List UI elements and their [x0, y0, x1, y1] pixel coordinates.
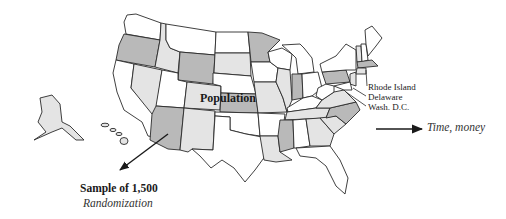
- us-map: [0, 0, 506, 219]
- state-hawaii-2: [110, 128, 116, 131]
- state-maine: [365, 26, 382, 56]
- state-hawaii-4: [120, 138, 128, 145]
- callout-line-delaware: [353, 88, 366, 96]
- randomization-label: Randomization: [83, 197, 153, 209]
- state-massachusetts: [357, 60, 378, 68]
- state-new-york: [320, 44, 356, 72]
- state-new-mexico: [180, 108, 215, 152]
- state-indiana: [292, 74, 303, 100]
- state-south-dakota: [214, 53, 251, 76]
- callout-rhode-island: Rhode Island: [368, 82, 416, 92]
- state-hawaii-1: [101, 123, 109, 127]
- state-connecticut: [356, 68, 366, 74]
- state-hawaii-3: [116, 132, 122, 135]
- callout-delaware: Delaware: [368, 92, 402, 102]
- state-mississippi: [278, 120, 294, 152]
- state-florida: [296, 146, 348, 194]
- callout-wash-dc: Wash. D.C.: [368, 102, 409, 112]
- callout-line-rhode-island: [366, 70, 367, 86]
- time-money-label: Time, money: [427, 121, 485, 133]
- state-wyoming: [178, 52, 215, 84]
- population-label: Population: [200, 91, 256, 106]
- state-alaska: [34, 95, 84, 140]
- sample-size-label: Sample of 1,500: [80, 182, 158, 194]
- state-north-dakota: [215, 32, 250, 53]
